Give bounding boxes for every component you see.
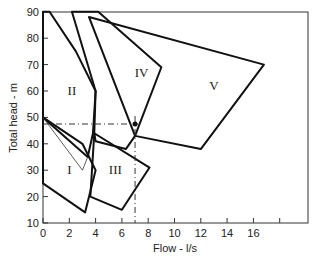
y-tick-label: 60	[27, 85, 39, 97]
x-tick-label: 0	[40, 227, 46, 239]
plot-frame	[43, 12, 308, 223]
x-tick-label: 2	[66, 227, 72, 239]
performance-regions	[43, 12, 264, 213]
y-tick-label: 50	[27, 111, 39, 123]
x-tick-label: 10	[168, 227, 180, 239]
region-label-III: III	[109, 162, 122, 177]
region-label-V: V	[209, 78, 219, 93]
y-axis-title: Total head - m	[7, 83, 19, 153]
axis-ticks: 0246810121416102030405060708090	[27, 6, 280, 239]
pump-selection-chart: 0246810121416102030405060708090 IIIIIIIV…	[0, 0, 316, 261]
region-V-boundary	[89, 17, 264, 149]
y-tick-label: 40	[27, 138, 39, 150]
y-tick-label: 80	[27, 32, 39, 44]
y-tick-label: 20	[27, 191, 39, 203]
region-label-IV: IV	[135, 65, 149, 80]
x-tick-label: 14	[221, 227, 233, 239]
y-tick-label: 10	[27, 217, 39, 229]
x-tick-label: 16	[247, 227, 259, 239]
y-tick-label: 70	[27, 59, 39, 71]
x-tick-label: 6	[119, 227, 125, 239]
y-tick-label: 90	[27, 6, 39, 18]
region-label-II: II	[68, 83, 77, 98]
region-label-I: I	[67, 162, 71, 177]
x-tick-label: 8	[145, 227, 151, 239]
x-tick-label: 12	[195, 227, 207, 239]
operating-point	[133, 122, 138, 127]
x-axis-title: Flow - l/s	[153, 242, 198, 254]
x-tick-label: 4	[93, 227, 99, 239]
y-tick-label: 30	[27, 164, 39, 176]
